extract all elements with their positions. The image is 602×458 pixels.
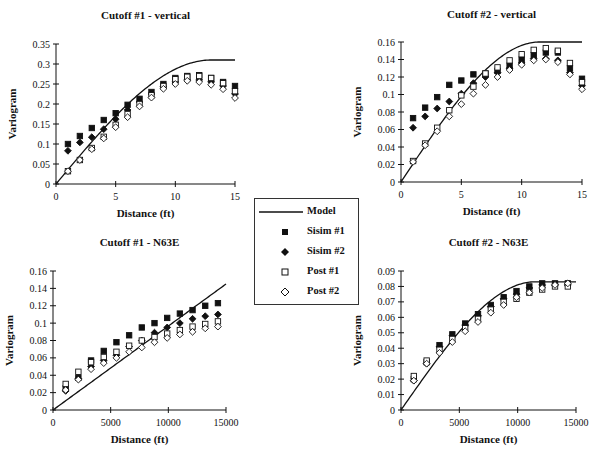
data-point-filled-diamond <box>446 98 453 105</box>
legend-item-model: Model <box>255 203 358 221</box>
data-point-filled-diamond <box>215 311 222 318</box>
chart-title: Cutoff #1 - vertical <box>101 9 190 21</box>
data-point-filled-square <box>435 94 440 99</box>
data-point-open-square <box>555 48 560 53</box>
y-tick-label: 0.04 <box>30 370 48 381</box>
legend-item-sisim-1: Sisim #1 <box>255 223 358 241</box>
data-point-open-square <box>567 60 572 65</box>
y-tick-label: 0.09 <box>378 266 396 277</box>
series-post-1 <box>65 73 237 174</box>
y-tick-label: 0.14 <box>30 283 48 294</box>
y-axis-label: Variogram <box>351 315 363 366</box>
data-point-filled-square <box>126 333 131 338</box>
y-tick-label: 0.07 <box>378 296 396 307</box>
y-tick-label: 0.1 <box>383 89 396 100</box>
data-point-open-square <box>220 81 225 86</box>
y-axis-label: Variogram <box>3 315 15 366</box>
legend-item-post-2: Post #2 <box>255 283 358 301</box>
data-point-filled-square <box>422 105 427 110</box>
data-point-filled-square <box>77 133 82 138</box>
data-point-open-square <box>88 360 93 365</box>
chart-title: Cutoff #2 - vertical <box>447 8 536 20</box>
data-point-open-diamond <box>482 81 489 88</box>
legend-label: Post #2 <box>307 285 339 296</box>
y-tick-label: 0 <box>42 405 47 416</box>
x-tick-label: 15 <box>577 189 587 200</box>
series-sisim-2 <box>62 311 221 394</box>
x-tick-label: 0 <box>54 191 59 202</box>
y-tick-label: 0.08 <box>378 107 396 118</box>
x-tick-label: 10 <box>170 191 180 202</box>
data-point-open-square <box>114 349 119 354</box>
series-post-1 <box>411 284 570 379</box>
x-axis-label: Distance (ft) <box>111 433 169 446</box>
data-point-filled-square <box>101 117 106 122</box>
y-tick-label: 0.3 <box>38 59 51 70</box>
data-point-filled-square <box>114 340 119 345</box>
data-point-filled-square <box>447 82 452 87</box>
y-tick-label: 0 <box>390 177 395 188</box>
y-tick-label: 0.03 <box>378 358 396 369</box>
data-point-filled-square <box>471 72 476 77</box>
data-point-open-square <box>197 73 202 78</box>
x-tick-label: 15000 <box>564 417 589 428</box>
y-tick-label: 0.05 <box>378 327 396 338</box>
y-tick-label: 0 <box>45 179 50 190</box>
legend-label: Sisim #2 <box>307 245 345 256</box>
data-point-open-diamond <box>470 90 477 97</box>
chart-panel-2: Cutoff #2 - vertical05101500.020.040.060… <box>351 8 587 218</box>
data-point-open-diamond <box>138 344 145 351</box>
data-point-filled-square <box>410 115 415 120</box>
data-point-filled-square <box>113 111 118 116</box>
data-point-open-diamond <box>446 113 453 120</box>
data-point-open-square <box>543 45 548 50</box>
x-tick-label: 15000 <box>214 417 239 428</box>
data-point-filled-square <box>65 141 70 146</box>
y-tick-label: 0.25 <box>33 79 51 90</box>
legend-label: Sisim #1 <box>307 225 345 236</box>
series-sisim-2 <box>410 282 571 385</box>
filled-diamond-icon <box>255 243 305 261</box>
y-tick-label: 0.16 <box>378 37 396 48</box>
y-tick-label: 0.12 <box>30 300 48 311</box>
x-tick-label: 15 <box>230 191 240 202</box>
data-point-filled-square <box>101 348 106 353</box>
data-point-filled-square <box>459 78 464 83</box>
filled-square-icon <box>255 223 305 241</box>
x-tick-label: 10000 <box>505 417 530 428</box>
data-point-filled-square <box>203 303 208 308</box>
chart-panel-3: Cutoff #1 - N63E05000100001500000.020.04… <box>3 236 239 446</box>
y-axis-label: Variogram <box>6 89 18 140</box>
data-point-filled-diamond <box>422 113 429 120</box>
data-point-open-square <box>507 58 512 63</box>
series-post-2 <box>62 323 221 393</box>
y-tick-label: 0.05 <box>33 159 51 170</box>
data-point-filled-diamond <box>65 147 72 154</box>
data-point-filled-diamond <box>76 139 83 146</box>
legend-label: Model <box>307 205 336 216</box>
y-tick-label: 0.02 <box>30 387 48 398</box>
x-tick-label: 10000 <box>156 417 181 428</box>
data-point-filled-square <box>89 125 94 130</box>
y-tick-label: 0.04 <box>378 343 396 354</box>
y-tick-label: 0.06 <box>30 352 48 363</box>
data-point-filled-diamond <box>112 116 119 123</box>
legend-item-sisim-2: Sisim #2 <box>255 243 358 261</box>
data-point-filled-square <box>232 83 237 88</box>
x-tick-label: 5000 <box>449 417 469 428</box>
x-axis-label: Distance (ft) <box>463 205 521 218</box>
y-tick-label: 0.12 <box>378 72 396 83</box>
chart-panel-4: Cutoff #2 - N63E05000100001500000.010.02… <box>351 236 589 446</box>
data-point-open-square <box>447 108 452 113</box>
y-tick-label: 0.08 <box>378 281 396 292</box>
open-square-icon <box>255 263 305 281</box>
y-tick-label: 0.1 <box>35 318 48 329</box>
data-point-filled-diamond <box>410 124 417 131</box>
series-post-2 <box>410 280 571 384</box>
x-tick-label: 10 <box>517 189 527 200</box>
data-point-open-square <box>101 354 106 359</box>
data-point-open-square <box>76 369 81 374</box>
y-tick-label: 0.06 <box>378 124 396 135</box>
chart-title: Cutoff #2 - N63E <box>449 236 529 248</box>
y-tick-label: 0.06 <box>378 312 396 323</box>
